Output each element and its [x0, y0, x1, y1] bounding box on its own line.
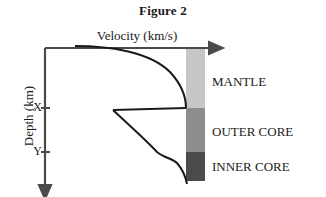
velocity-curve-outer-core: [113, 110, 187, 184]
velocity-curve-mantle: [75, 46, 186, 108]
plot-svg: [0, 0, 326, 197]
velocity-drop-segment: [113, 108, 186, 110]
figure-container: Figure 2 Velocity (km/s) Depth (km) X Y …: [0, 0, 326, 197]
